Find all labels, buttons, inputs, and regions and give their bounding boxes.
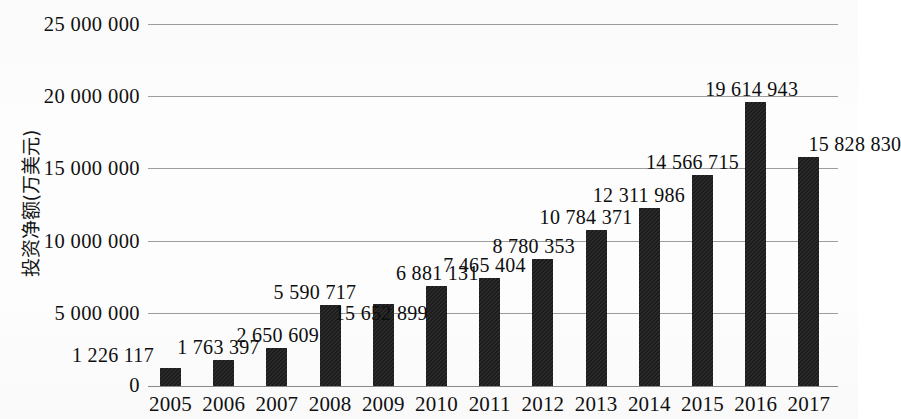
bar-2011: [479, 278, 500, 386]
value-label-2008: 5 590 717: [274, 281, 357, 304]
y-axis-title: 投资净额(万美元): [16, 89, 43, 319]
bar-2014: [639, 208, 660, 386]
y-tick-label-5000000: 5 000 000: [0, 302, 140, 325]
value-label-2016: 19 614 943: [705, 78, 798, 101]
bar-2017: [798, 157, 819, 386]
bar-2010: [426, 286, 447, 386]
bar-2013: [586, 230, 607, 386]
value-label-2017: 15 828 830: [808, 133, 901, 156]
bar-2016: [745, 102, 766, 386]
value-label-2014: 12 311 986: [593, 184, 685, 207]
bar-2015: [692, 175, 713, 386]
plot-area: 1 226 1171 763 3972 650 6095 590 71715 6…: [148, 0, 838, 419]
bar-2012: [532, 259, 553, 386]
value-label-2009: 15 652 899: [335, 302, 428, 325]
y-tick-label-25000000: 25 000 000: [0, 13, 140, 36]
x-tick-label-2017: 2017: [777, 392, 841, 417]
bar-2007: [266, 348, 287, 386]
value-label-2015: 14 566 715: [646, 151, 739, 174]
bar-2005: [160, 368, 181, 386]
bar-2006: [213, 360, 234, 386]
value-label-2012: 8 780 353: [492, 235, 575, 258]
value-label-2005: 1 226 117: [72, 344, 154, 367]
value-label-2007: 2 650 609: [236, 324, 319, 347]
y-tick-label-0: 0: [0, 374, 140, 397]
axis-baseline: [148, 386, 838, 387]
y-tick-label-10000000: 10 000 000: [0, 230, 140, 253]
value-label-2013: 10 784 371: [540, 206, 633, 229]
y-tick-label-15000000: 15 000 000: [0, 157, 140, 180]
y-tick-label-20000000: 20 000 000: [0, 85, 140, 108]
gridline-25000000: [148, 24, 838, 25]
